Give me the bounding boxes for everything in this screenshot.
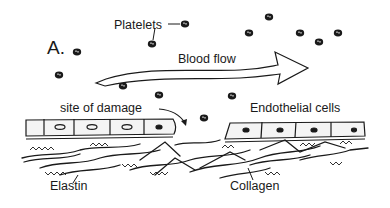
elastin-spikes xyxy=(30,141,352,175)
panel-label: A. xyxy=(47,38,65,57)
endothelial-cells-label: Endothelial cells xyxy=(250,102,340,115)
elastin-label: Elastin xyxy=(50,180,88,193)
connective-tissue-fibers xyxy=(22,140,368,178)
endothelium-left xyxy=(26,119,175,139)
blood-vessel-damage-diagram: A. Platelets Blood flow site of damage E… xyxy=(0,0,390,208)
collagen-label: Collagen xyxy=(230,180,279,193)
blood-flow-label: Blood flow xyxy=(178,53,236,66)
platelets-label: Platelets xyxy=(114,19,162,32)
site-of-damage-label: site of damage xyxy=(60,102,142,115)
endothelium-right xyxy=(225,122,365,142)
